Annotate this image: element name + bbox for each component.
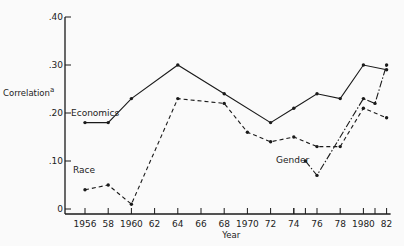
series-gender xyxy=(304,63,389,177)
y-tick-label: .10 xyxy=(49,156,64,166)
y-tick-label: .20 xyxy=(49,108,64,118)
gender-point xyxy=(315,174,318,177)
race-point xyxy=(315,145,318,148)
line-chart: 0.10.20.30.40195658196062646668197072747… xyxy=(0,0,404,246)
race-point xyxy=(362,107,365,110)
gender-point xyxy=(385,63,388,66)
gender-point xyxy=(373,102,376,105)
economics-point xyxy=(315,92,318,95)
y-axis-title: Correlationa xyxy=(3,86,54,98)
x-tick-label: 58 xyxy=(102,219,114,229)
x-tick-label: 64 xyxy=(172,219,184,229)
axes: 0.10.20.30.40195658196062646668197072747… xyxy=(3,12,392,240)
race-point xyxy=(107,183,110,186)
economics-point xyxy=(269,121,272,124)
x-tick-label: 78 xyxy=(334,219,346,229)
gender-line xyxy=(305,65,386,175)
race-point xyxy=(83,188,86,191)
economics-point xyxy=(339,97,342,100)
economics-point xyxy=(362,63,365,66)
economics-point xyxy=(130,97,133,100)
x-tick-label: 68 xyxy=(218,219,230,229)
series-race xyxy=(83,97,388,206)
economics-label: Economics xyxy=(71,108,120,118)
race-point xyxy=(223,102,226,105)
x-tick-label: 74 xyxy=(288,219,300,229)
y-tick-label: .30 xyxy=(49,60,64,70)
gender-label: Gender xyxy=(276,155,309,165)
economics-point xyxy=(176,63,179,66)
economics-point xyxy=(292,107,295,110)
labels: EconomicsRaceGender xyxy=(71,108,309,214)
x-tick-label: 72 xyxy=(265,219,276,229)
race-label: Race xyxy=(73,165,96,175)
race-point xyxy=(176,97,179,100)
y-tick-label: .40 xyxy=(49,12,64,22)
race-line xyxy=(85,99,387,205)
series-group xyxy=(83,63,388,206)
economics-point xyxy=(223,92,226,95)
race-point xyxy=(130,203,133,206)
x-axis-title: Year xyxy=(221,230,241,240)
x-tick-label: 66 xyxy=(195,219,207,229)
race-point xyxy=(385,116,388,119)
y-axis-title-superscript: a xyxy=(50,86,54,94)
gender-point xyxy=(362,97,365,100)
race-point xyxy=(339,145,342,148)
x-tick-label: 82 xyxy=(381,219,392,229)
race-point xyxy=(246,131,249,134)
economics-point xyxy=(107,121,110,124)
economics-line xyxy=(85,65,387,123)
x-tick-label: 1980 xyxy=(352,219,375,229)
economics-point xyxy=(83,121,86,124)
x-tick-label: 62 xyxy=(149,219,160,229)
race-point xyxy=(292,135,295,138)
y-tick-label: 0 xyxy=(57,204,63,214)
race-point xyxy=(269,140,272,143)
series-economics xyxy=(83,63,388,124)
x-tick-label: 1960 xyxy=(120,219,143,229)
x-tick-label: 1970 xyxy=(236,219,259,229)
x-tick-label: 76 xyxy=(311,219,323,229)
x-tick-label: 1956 xyxy=(74,219,97,229)
